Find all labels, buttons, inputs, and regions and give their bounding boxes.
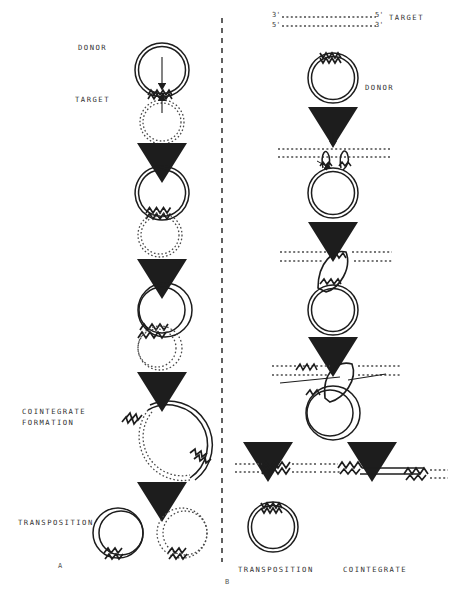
label-target-b: TARGET (389, 13, 424, 23)
label-5prime-bottom-left: 5' (272, 21, 280, 29)
product-donor-circle (93, 508, 143, 559)
transposon-zigzag-b6 (261, 503, 282, 513)
transposon-zigzag-a4-left (122, 413, 142, 424)
label-cointegrate-b: COINTEGRATE (343, 565, 407, 575)
panel-a-stage-2 (135, 166, 189, 274)
panel-id-b: B (225, 578, 230, 586)
target-linear-dna-b (282, 17, 376, 26)
panel-b-product-cointegrate (320, 462, 448, 480)
panel-b (235, 17, 448, 552)
label-cointegrate-formation-line1: COINTEGRATE (22, 407, 86, 417)
label-target-a: TARGET (75, 95, 110, 105)
donor-plasmid-a2 (135, 166, 189, 220)
label-3prime-top-left: 3' (272, 11, 280, 19)
label-donor-a: DONOR (78, 43, 107, 53)
panel-b-stage-2 (278, 133, 390, 237)
label-cointegrate-formation-line2: FORMATION (22, 418, 74, 428)
panel-a-stage-1 (135, 43, 189, 158)
label-transposition-a: TRANSPOSITION (18, 518, 94, 528)
panel-b-circular-product (248, 502, 298, 552)
label-5prime-top-right: 5' (375, 11, 383, 19)
label-donor-b: DONOR (365, 83, 394, 93)
panel-b-product-transposition (235, 462, 318, 474)
panel-a (93, 43, 212, 559)
panel-a-stage-5-products (93, 508, 207, 559)
panel-a-stage-4-cointegrate (122, 401, 212, 497)
panel-a-stage-3 (138, 283, 192, 387)
label-transposition-b: TRANSPOSITION (238, 565, 314, 575)
panel-b-stage-1 (308, 53, 358, 122)
panel-b-stage-4 (268, 363, 400, 457)
panel-id-a: A (58, 562, 63, 570)
transposon-zigzag-a4-right (190, 449, 211, 463)
label-3prime-bottom-right: 3' (375, 21, 383, 29)
panel-b-stage-3 (280, 252, 392, 352)
transposon-zigzag-a1 (148, 90, 172, 99)
product-target-circle (157, 508, 207, 559)
